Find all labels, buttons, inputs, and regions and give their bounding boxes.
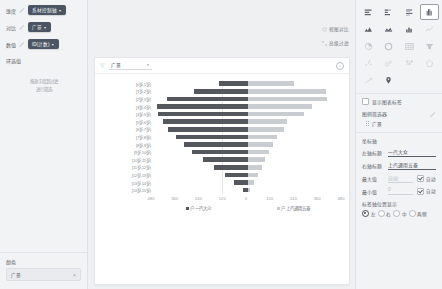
chart-type-bar-horizontal[interactable]: [359, 4, 378, 20]
radio-button[interactable]: [378, 210, 385, 217]
pencil-icon[interactable]: [430, 111, 436, 117]
axis-setting-value[interactable]: 0: [388, 187, 413, 195]
chart-half-right: [248, 126, 341, 134]
chart-bar-right[interactable]: [248, 180, 254, 185]
color-field[interactable]: 广景 ×: [6, 268, 81, 281]
label-position-group: 标签轴位置显示 左右中两侧: [356, 195, 442, 217]
show-labels-checkbox[interactable]: [362, 98, 369, 105]
axis-setting-value[interactable]: 一汽大众: [388, 148, 436, 157]
chart-bar-left[interactable]: [176, 135, 248, 140]
chart-type-heatmap[interactable]: [400, 55, 419, 71]
dimension-pill[interactable]: 系材控制轴 ▾: [28, 5, 66, 15]
chart-bar-right[interactable]: [248, 81, 294, 86]
table-icon: [405, 42, 414, 51]
chart-category-label: [5岁,6岁): [103, 119, 155, 125]
auto-toggle[interactable]: 自动: [417, 175, 436, 182]
pencil-icon[interactable]: [19, 24, 25, 30]
pencil-icon[interactable]: [19, 41, 25, 47]
measure-pill[interactable]: ID(计数) ▾: [28, 39, 59, 49]
chart-bar-right[interactable]: [248, 173, 258, 178]
chart-type-line-chart[interactable]: [420, 21, 439, 37]
compare-pill[interactable]: 广景 ▾: [28, 22, 51, 32]
chart-type-area-chart[interactable]: [359, 21, 378, 37]
auto-toggle[interactable]: 自动: [417, 188, 436, 195]
chart-bar-right[interactable]: [248, 127, 284, 132]
radio-button[interactable]: [362, 210, 369, 217]
chart-bar-pair: [155, 126, 341, 134]
link-view-compare[interactable]: 视图对比: [322, 26, 349, 32]
chart-type-donut-chart[interactable]: [379, 38, 398, 54]
legend-filter-tag[interactable]: 广景: [356, 117, 442, 127]
chart-type-bubble-chart[interactable]: [379, 55, 398, 71]
chart-type-bar-grouped[interactable]: [400, 4, 419, 20]
chart-bar-right[interactable]: [248, 112, 304, 117]
chart-type-bar-stacked[interactable]: [379, 4, 398, 20]
chart-bar-right[interactable]: [248, 157, 265, 162]
field-row-dimension[interactable]: 维度 系材控制轴 ▾: [0, 0, 87, 17]
chart-bar-right[interactable]: [248, 150, 269, 155]
chart-bar-left[interactable]: [163, 119, 248, 124]
area-stacked-icon: [384, 25, 393, 34]
chart-bar-left[interactable]: [234, 180, 248, 185]
show-labels-row[interactable]: 显示图表标签: [356, 94, 442, 105]
chart-bar-right[interactable]: [248, 188, 250, 193]
radio-option[interactable]: 右: [378, 210, 392, 217]
chart-scope-select[interactable]: 广景 ▾: [109, 61, 152, 70]
pie-chart-icon: [364, 42, 373, 51]
funnel-icon[interactable]: [100, 63, 105, 68]
chart-bar-left[interactable]: [168, 127, 248, 132]
close-icon[interactable]: ×: [73, 272, 76, 278]
auto-checkbox[interactable]: [417, 188, 424, 195]
chart-bar-right[interactable]: [248, 104, 312, 109]
chart-bar-left[interactable]: [203, 157, 248, 162]
chart-type-column-chart[interactable]: [400, 21, 419, 37]
chart-bar-left[interactable]: [192, 150, 248, 155]
auto-checkbox[interactable]: [417, 175, 424, 182]
chart-type-area-stacked[interactable]: [379, 21, 398, 37]
chart-bar-left[interactable]: [219, 81, 248, 86]
chart-type-trend-line[interactable]: [359, 72, 378, 88]
compare-label: 对比: [6, 24, 16, 31]
chart-type-butterfly-chart[interactable]: [420, 4, 439, 20]
chart-bar-left[interactable]: [167, 97, 248, 102]
chart-bar-left[interactable]: [214, 165, 248, 170]
chart-bar-right[interactable]: [248, 142, 273, 147]
field-row-compare[interactable]: 对比 广景 ▾: [0, 17, 87, 34]
chart-type-funnel-chart[interactable]: [420, 38, 439, 54]
chart-bar-left[interactable]: [157, 104, 248, 109]
chart-type-map-chart[interactable]: [379, 72, 398, 88]
radio-button[interactable]: [409, 210, 416, 217]
axis-setting-value[interactable]: 上汽通用五菱: [388, 161, 436, 170]
chart-bar-left[interactable]: [158, 112, 248, 117]
chart-bar-left[interactable]: [194, 89, 248, 94]
radio-option[interactable]: 两侧: [409, 210, 428, 217]
chart-bar-left[interactable]: [225, 173, 248, 178]
field-row-measure[interactable]: 数值 ID(计数) ▾: [0, 34, 87, 51]
chart-bar-right[interactable]: [248, 89, 326, 94]
chart-type-pie-chart[interactable]: [359, 38, 378, 54]
link-advanced-filter[interactable]: 高级过滤: [322, 40, 349, 46]
chart-bar-right[interactable]: [248, 119, 287, 124]
radar-chart-icon: [425, 59, 434, 68]
drag-handle-icon[interactable]: [366, 121, 369, 126]
legend-filter-section: 图例筛选器: [356, 105, 442, 117]
radio-option[interactable]: 左: [362, 210, 376, 217]
legend-filter-title: 图例筛选器: [362, 110, 387, 117]
legend-swatch-right: [277, 207, 280, 210]
chart-bar-right[interactable]: [248, 97, 327, 102]
chart-type-table[interactable]: [400, 38, 419, 54]
pencil-icon[interactable]: [19, 7, 25, 13]
scatter-plot-icon: [364, 59, 373, 68]
chart-type-radar-chart[interactable]: [420, 55, 439, 71]
chart-type-scatter-plot[interactable]: [359, 55, 378, 71]
measure-label: 数值: [6, 41, 16, 48]
chart-bar-left[interactable]: [184, 142, 248, 147]
info-icon[interactable]: i: [336, 62, 344, 70]
chart-bar-right[interactable]: [248, 165, 262, 170]
radio-button[interactable]: [393, 210, 400, 217]
filter-dropzone[interactable]: 拖放字段到过滤 进行筛选: [8, 78, 79, 95]
axis-setting-value[interactable]: 自动: [388, 174, 413, 183]
chart-bar-right[interactable]: [248, 135, 277, 140]
chart-row: [11岁,12岁): [103, 164, 341, 172]
radio-option[interactable]: 中: [393, 210, 407, 217]
